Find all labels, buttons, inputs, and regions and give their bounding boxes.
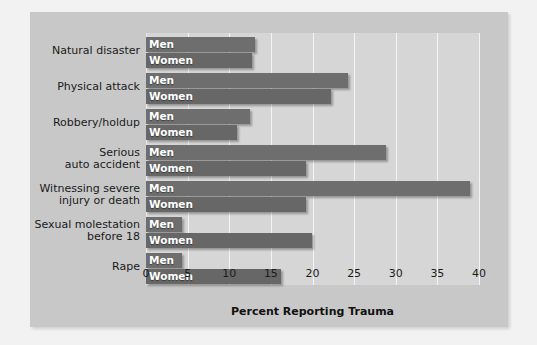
bar-men-5[interactable]: Men: [146, 217, 182, 232]
bar-series-label: Women: [149, 53, 193, 68]
gridline-35: [437, 33, 438, 285]
category-label-0: Natural disaster: [30, 45, 140, 58]
bar-series-label: Women: [149, 233, 193, 248]
category-label-line: Physical attack: [30, 81, 140, 94]
bar-men-4[interactable]: Men: [146, 181, 470, 196]
bar-women-4[interactable]: Women: [146, 197, 306, 212]
gridline-40: [479, 33, 480, 285]
category-label-line: before 18: [30, 231, 140, 244]
bar-men-1[interactable]: Men: [146, 73, 348, 88]
category-label-3: Seriousauto accident: [30, 147, 140, 172]
bar-series-label: Men: [149, 109, 174, 124]
bar-series-label: Men: [149, 37, 174, 52]
bar-women-5[interactable]: Women: [146, 233, 312, 248]
x-tick-30: 30: [389, 267, 403, 280]
bar-men-2[interactable]: Men: [146, 109, 250, 124]
bar-men-6[interactable]: Men: [146, 253, 182, 268]
x-tick-0: 0: [143, 267, 150, 280]
bar-men-3[interactable]: Men: [146, 145, 386, 160]
bar-series-label: Women: [149, 161, 193, 176]
bar-series-label: Women: [149, 197, 193, 212]
bar-women-2[interactable]: Women: [146, 125, 237, 140]
bar-series-label: Men: [149, 73, 174, 88]
category-label-5: Sexual molestationbefore 18: [30, 219, 140, 244]
bar-men-0[interactable]: Men: [146, 37, 255, 52]
x-tick-10: 10: [222, 267, 236, 280]
bar-women-0[interactable]: Women: [146, 53, 252, 68]
category-label-4: Witnessing severeinjury or death: [30, 183, 140, 208]
bar-women-3[interactable]: Women: [146, 161, 306, 176]
category-label-line: Natural disaster: [30, 45, 140, 58]
x-tick-25: 25: [347, 267, 361, 280]
bar-women-6[interactable]: Women: [146, 269, 281, 284]
bar-women-1[interactable]: Women: [146, 89, 331, 104]
chart-panel: MenWomenMenWomenMenWomenMenWomenMenWomen…: [30, 12, 508, 327]
gridline-30: [396, 33, 397, 285]
x-tick-20: 20: [306, 267, 320, 280]
bar-series-label: Women: [149, 125, 193, 140]
category-label-2: Robbery/holdup: [30, 117, 140, 130]
category-label-line: Robbery/holdup: [30, 117, 140, 130]
bar-series-label: Men: [149, 181, 174, 196]
x-axis-title: Percent Reporting Trauma: [146, 305, 479, 318]
bar-series-label: Women: [149, 89, 193, 104]
category-label-6: Rape: [30, 261, 140, 274]
plot-area: MenWomenMenWomenMenWomenMenWomenMenWomen…: [146, 33, 479, 285]
figure-canvas: MenWomenMenWomenMenWomenMenWomenMenWomen…: [0, 0, 537, 345]
bar-series-label: Men: [149, 253, 174, 268]
x-tick-40: 40: [472, 267, 486, 280]
category-label-line: auto accident: [30, 159, 140, 172]
category-label-1: Physical attack: [30, 81, 140, 94]
x-tick-35: 35: [430, 267, 444, 280]
bar-series-label: Men: [149, 145, 174, 160]
bar-series-label: Men: [149, 217, 174, 232]
category-label-line: Rape: [30, 261, 140, 274]
x-tick-5: 5: [184, 267, 191, 280]
x-tick-15: 15: [264, 267, 278, 280]
category-label-line: injury or death: [30, 195, 140, 208]
